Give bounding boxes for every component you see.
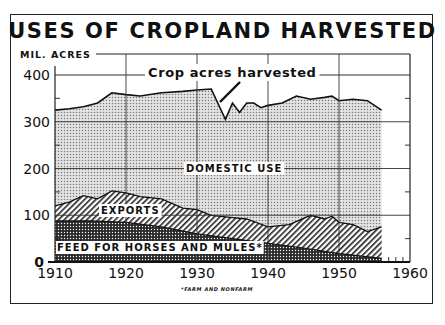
x-tick-label: 1930 [179, 265, 215, 281]
x-tick-label: 1920 [108, 265, 144, 281]
x-tick-label: 1940 [250, 265, 286, 281]
stacked-areas [55, 89, 382, 262]
label-exports: EXPORTS [99, 204, 162, 217]
svg-text:FEED FOR HORSES AND MULES*: FEED FOR HORSES AND MULES* [57, 242, 263, 253]
annotation-pointer [220, 82, 240, 102]
label-domestic-use: DOMESTIC USE [184, 162, 284, 175]
annotation-crop-acres-harvested: Crop acres harvested [145, 64, 320, 81]
footnote: *FARM AND NONFARM [181, 286, 253, 292]
x-tick-label: 1910 [37, 265, 73, 281]
svg-text:EXPORTS: EXPORTS [101, 205, 160, 216]
y-tick-label: 400 [23, 67, 50, 83]
y-tick-label: 100 [23, 207, 50, 223]
x-tick-label: 1950 [321, 265, 357, 281]
y-tick-label: 200 [23, 161, 50, 177]
chart-plot: 4003002001000191019201930194019501960 DO… [0, 0, 445, 325]
svg-text:DOMESTIC USE: DOMESTIC USE [186, 163, 282, 174]
y-tick-label: 300 [23, 114, 50, 130]
label-feed-horses-mules: FEED FOR HORSES AND MULES* [56, 241, 264, 254]
svg-text:Crop acres harvested: Crop acres harvested [148, 65, 317, 80]
x-tick-label: 1960 [392, 265, 428, 281]
